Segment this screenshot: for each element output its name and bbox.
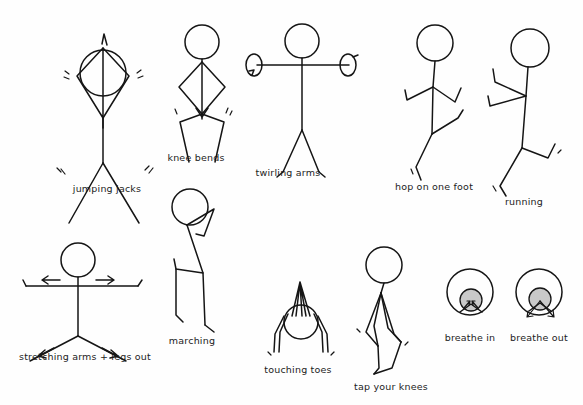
caption-jumping-jacks: jumping jacks	[73, 183, 141, 194]
figure-jumping-jacks	[55, 18, 165, 183]
caption-stretching-arms-legs-out: stretching arms + legs out	[19, 351, 151, 362]
figure-twirling-arms	[245, 22, 360, 162]
caption-running: running	[505, 196, 543, 207]
figure-touching-toes	[262, 276, 342, 361]
caption-twirling-arms: twirling arms	[256, 167, 321, 178]
figure-breathe-out	[513, 268, 568, 326]
caption-breathe-in: breathe in	[445, 332, 496, 343]
figure-stretching-arms-legs-out	[16, 238, 171, 353]
caption-touching-toes: touching toes	[264, 364, 331, 375]
caption-marching: marching	[169, 335, 215, 346]
figure-breathe-in	[444, 268, 499, 323]
exercise-sheet: jumping jacks knee bends	[0, 0, 583, 405]
figure-running	[470, 18, 580, 183]
figure-knee-bends	[158, 22, 253, 147]
caption-breathe-out: breathe out	[510, 332, 568, 343]
figure-tap-your-knees	[348, 246, 433, 371]
caption-tap-your-knees: tap your knees	[354, 381, 428, 392]
figure-marching	[160, 185, 260, 335]
caption-knee-bends: knee bends	[167, 152, 224, 163]
caption-hop-on-one-foot: hop on one foot	[395, 181, 473, 192]
